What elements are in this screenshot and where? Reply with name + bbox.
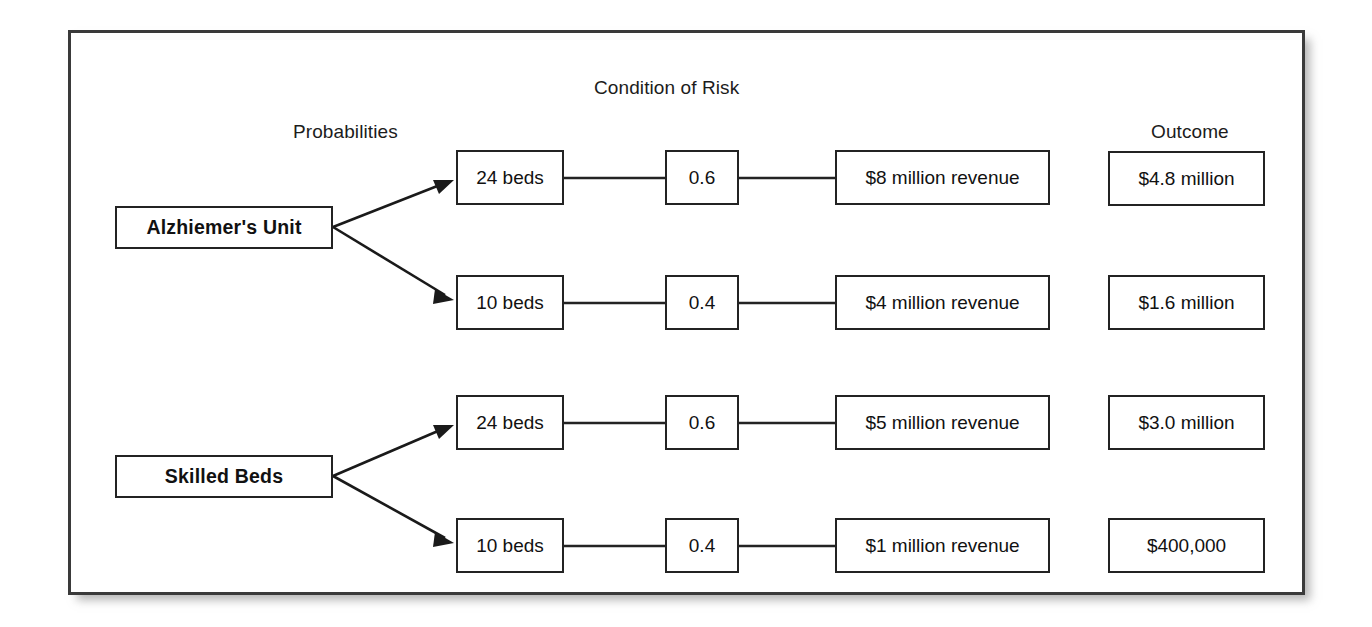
branch-group-decision-1	[333, 425, 454, 547]
branch-group-decision-0	[333, 180, 454, 304]
probability-node-row-1[interactable]: 0.4	[665, 275, 739, 330]
outcome-node-row-3[interactable]: $400,000	[1108, 518, 1265, 573]
beds-node-row-1[interactable]: 10 beds	[456, 275, 564, 330]
beds-node-row-3[interactable]: 10 beds	[456, 518, 564, 573]
header-outcome: Outcome	[1151, 121, 1229, 143]
beds-node-row-0[interactable]: 24 beds	[456, 150, 564, 205]
outcome-node-row-0[interactable]: $4.8 million	[1108, 151, 1265, 206]
decision-tree-figure-frame: Condition of Risk Probabilities Outcome	[68, 30, 1305, 595]
revenue-node-row-1[interactable]: $4 million revenue	[835, 275, 1050, 330]
header-condition-of-risk: Condition of Risk	[594, 77, 739, 99]
decision-node-alzhiemers-unit[interactable]: Alzhiemer's Unit	[115, 206, 333, 249]
outcome-node-row-2[interactable]: $3.0 million	[1108, 395, 1265, 450]
header-probabilities: Probabilities	[293, 121, 398, 143]
probability-node-row-3[interactable]: 0.4	[665, 518, 739, 573]
probability-node-row-0[interactable]: 0.6	[665, 150, 739, 205]
beds-node-row-2[interactable]: 24 beds	[456, 395, 564, 450]
outcome-node-row-1[interactable]: $1.6 million	[1108, 275, 1265, 330]
revenue-node-row-0[interactable]: $8 million revenue	[835, 150, 1050, 205]
revenue-node-row-3[interactable]: $1 million revenue	[835, 518, 1050, 573]
decision-node-skilled-beds[interactable]: Skilled Beds	[115, 455, 333, 498]
probability-node-row-2[interactable]: 0.6	[665, 395, 739, 450]
revenue-node-row-2[interactable]: $5 million revenue	[835, 395, 1050, 450]
